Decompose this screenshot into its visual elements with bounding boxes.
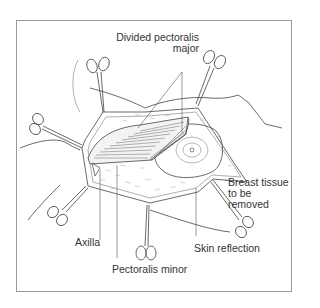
pectoralis-minor (92, 163, 100, 176)
label-axilla: Axilla (75, 237, 100, 248)
label-line: removed (228, 199, 289, 210)
forceps-icon-bottom-center (136, 205, 156, 260)
pectoralis-major-flap (88, 117, 189, 164)
label-divided-pectoralis-major: Divided pectoralis major (96, 32, 199, 54)
label-skin-reflection: Skin reflection (194, 243, 260, 254)
label-breast-tissue: Breast tissue to be removed (228, 177, 289, 210)
leader-lines (100, 72, 230, 258)
label-pectoralis-minor: Pectoralis minor (112, 264, 187, 275)
forceps-icon-top-left (85, 56, 111, 112)
forceps-icon-bottom-left (45, 186, 88, 228)
label-line: major (96, 43, 199, 54)
